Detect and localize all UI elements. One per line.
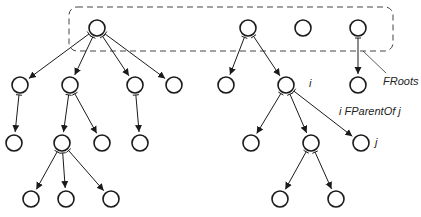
- froots-leader-line: [363, 51, 386, 73]
- edge-a2c1-g3: [69, 151, 104, 191]
- edge-i-ic1: [257, 94, 281, 134]
- edge-a2-a2c2: [75, 94, 97, 134]
- node-g1: [23, 191, 39, 207]
- edge-i-ic2: [290, 94, 307, 133]
- node-ic1: [243, 135, 259, 151]
- node-h1: [272, 191, 288, 207]
- node-i: [278, 77, 294, 93]
- edge-ic2-h2: [315, 152, 331, 189]
- node-r4: [350, 20, 366, 36]
- node-g2: [58, 191, 74, 207]
- node-a1c: [6, 135, 22, 151]
- node-d1: [350, 77, 366, 93]
- edge-a2c1-g1: [36, 152, 57, 190]
- node-a2c2: [94, 135, 110, 151]
- froots-dashed-box: [69, 7, 393, 51]
- node-i-label: i: [309, 78, 311, 89]
- parent-of-label: i FParentOf j: [339, 106, 401, 117]
- node-a2: [62, 77, 78, 93]
- node-g3: [103, 191, 119, 207]
- edge-a3-a3c: [136, 95, 139, 132]
- edge-tail-tick: [66, 94, 72, 95]
- node-h2: [328, 191, 344, 207]
- node-ic2: [303, 135, 319, 151]
- edge-a1-a1c: [15, 95, 19, 132]
- node-a4: [166, 77, 182, 93]
- node-a3c: [132, 135, 148, 151]
- edge-r2-i: [254, 36, 280, 76]
- edge-a2c1-g2: [63, 153, 66, 188]
- node-a1: [12, 77, 28, 93]
- froots-label: FRoots: [383, 76, 418, 87]
- node-r1: [89, 20, 105, 36]
- edge-ic2-h1: [285, 152, 306, 190]
- node-j: [353, 135, 369, 151]
- edges-layer: [15, 32, 361, 191]
- edge-tail-tick: [16, 95, 22, 96]
- edge-a2-a2c1: [64, 95, 69, 132]
- node-j-label: j: [375, 137, 377, 148]
- node-b1: [218, 77, 234, 93]
- edge-r1-a1: [29, 34, 89, 79]
- node-r2: [240, 20, 256, 36]
- edge-tail-tick: [133, 95, 139, 96]
- edge-r1-a4: [105, 34, 165, 79]
- node-a2c1: [54, 135, 70, 151]
- edge-r2-b1: [230, 37, 244, 74]
- nodes-layer: [6, 20, 369, 207]
- node-r3: [295, 20, 311, 36]
- node-a3: [127, 77, 143, 93]
